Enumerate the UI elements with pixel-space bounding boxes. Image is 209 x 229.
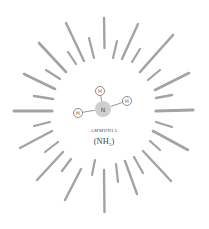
ray-stroke [104, 170, 105, 212]
ray-stroke [34, 96, 53, 99]
ammonia-molecule: N HHH [74, 87, 132, 118]
hydrogen-label: H [98, 88, 102, 94]
ray-stroke [68, 52, 76, 64]
ray-stroke [34, 122, 50, 126]
ray-stroke [113, 41, 117, 58]
ammonia-sunburst-diagram: N HHH AMMONIA (NH3) [0, 0, 209, 229]
ray-stroke [132, 49, 140, 62]
hydrogen-atom: H [123, 97, 132, 106]
ray-stroke [156, 122, 172, 127]
ray-stroke [140, 35, 173, 72]
formula-prefix: (NH [94, 136, 109, 146]
ray-stroke [24, 74, 55, 89]
ray-stroke [116, 164, 118, 182]
ray-stroke [66, 23, 84, 61]
ray-stroke [65, 169, 81, 200]
ray-stroke [122, 24, 138, 59]
ray-stroke [125, 161, 137, 194]
ray-stroke [62, 159, 71, 171]
hydrogen-label: H [125, 98, 129, 104]
ray-stroke [143, 151, 171, 181]
formula-suffix: ) [111, 136, 114, 146]
ray-stroke [155, 73, 189, 90]
ray-stroke [39, 43, 66, 72]
ray-stroke [45, 142, 58, 152]
ray-stroke [150, 141, 160, 150]
hydrogen-atom: H [96, 87, 105, 96]
nitrogen-atom: N [95, 101, 111, 117]
bond-line [101, 95, 102, 101]
ray-stroke [156, 95, 172, 98]
hydrogen-label: H [76, 110, 80, 116]
ray-stroke [148, 70, 160, 80]
molecule-name: AMMONIA [90, 128, 117, 133]
ray-stroke [46, 70, 60, 79]
ray-stroke [156, 110, 193, 111]
ray-stroke [37, 152, 63, 180]
ray-stroke [104, 18, 105, 48]
bond-line [82, 110, 95, 112]
ray-stroke [92, 160, 95, 175]
ray-stroke [89, 38, 94, 58]
ray-stroke [134, 157, 143, 173]
molecule-formula: (NH3) [94, 136, 115, 147]
hydrogen-atom: H [74, 109, 83, 118]
bond-line [111, 102, 123, 106]
ray-stroke [20, 131, 52, 148]
nitrogen-label: N [101, 106, 106, 113]
